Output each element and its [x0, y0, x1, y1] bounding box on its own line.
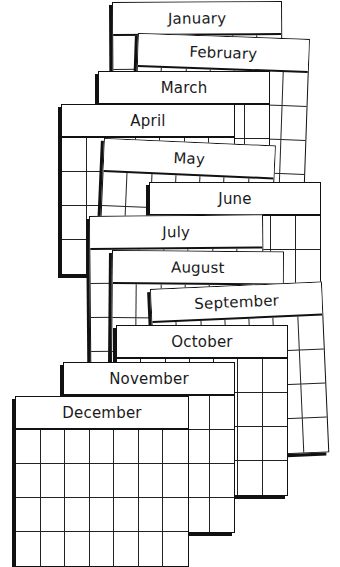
month-label: January: [113, 2, 281, 36]
day-cell: [185, 498, 209, 532]
day-cell: [263, 461, 287, 495]
day-cell: [41, 498, 66, 532]
day-cell: [41, 464, 66, 498]
day-cell: [281, 106, 306, 141]
day-cell: [16, 464, 41, 498]
day-cell: [263, 359, 287, 393]
day-cell: [114, 430, 139, 464]
day-cell: [282, 72, 307, 107]
day-cell: [102, 172, 128, 207]
month-label: November: [64, 363, 234, 396]
day-cell: [16, 498, 41, 532]
day-cell: [280, 140, 305, 175]
day-cell: [139, 498, 164, 532]
day-cell: [210, 430, 234, 464]
day-cell: [271, 216, 295, 250]
day-cell: [112, 284, 137, 318]
month-label: April: [62, 105, 234, 138]
day-cell: [238, 393, 262, 427]
day-cell: [113, 36, 137, 70]
day-cell: [114, 464, 139, 498]
day-cell: [210, 396, 234, 430]
day-cell: [302, 417, 328, 452]
day-cell: [65, 464, 90, 498]
day-cell: [41, 430, 66, 464]
day-cell: [301, 383, 327, 418]
day-cell: [90, 464, 115, 498]
day-cell: [185, 430, 209, 464]
day-cell: [62, 240, 87, 274]
day-cell: [163, 464, 188, 498]
day-cell: [163, 430, 188, 464]
day-cell: [114, 498, 139, 532]
day-cell: [90, 532, 115, 566]
month-label: October: [117, 326, 287, 359]
day-cell: [263, 393, 287, 427]
day-cell: [238, 461, 262, 495]
day-cell: [90, 430, 115, 464]
day-cell: [163, 498, 188, 532]
day-cell: [300, 349, 326, 384]
day-cell: [114, 532, 139, 566]
day-cell: [62, 206, 87, 240]
day-cell: [41, 532, 66, 566]
day-cell: [185, 464, 209, 498]
day-cell: [296, 250, 320, 284]
day-cell: [139, 464, 164, 498]
day-cell: [210, 464, 234, 498]
day-cell: [163, 532, 188, 566]
day-cell: [238, 359, 262, 393]
day-cell: [139, 430, 164, 464]
day-cell: [263, 427, 287, 461]
calendar-page-december: December: [15, 396, 189, 567]
day-cell: [185, 396, 209, 430]
month-label: July: [90, 215, 262, 249]
day-cell: [62, 172, 87, 206]
day-cell: [65, 532, 90, 566]
day-cell: [16, 430, 41, 464]
day-grid: [16, 430, 188, 566]
day-cell: [90, 498, 115, 532]
day-cell: [16, 532, 41, 566]
day-cell: [245, 105, 269, 139]
day-cell: [210, 498, 234, 532]
day-cell: [139, 532, 164, 566]
month-label: March: [99, 72, 269, 105]
month-label: August: [113, 251, 283, 285]
day-cell: [65, 430, 90, 464]
day-cell: [298, 316, 324, 351]
day-cell: [62, 138, 87, 172]
day-cell: [65, 498, 90, 532]
month-label: June: [150, 183, 320, 216]
month-label: December: [16, 397, 188, 430]
day-cell: [296, 216, 320, 250]
day-cell: [238, 427, 262, 461]
